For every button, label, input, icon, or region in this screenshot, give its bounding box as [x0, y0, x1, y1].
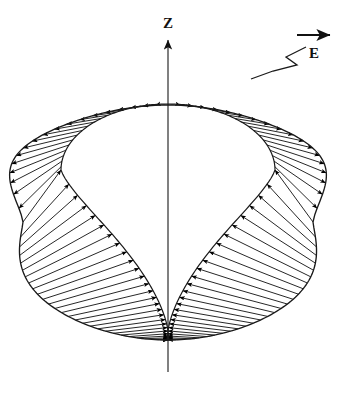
e-field-label: E: [309, 45, 319, 61]
figure-root: Z E: [0, 0, 345, 395]
z-axis-label: Z: [163, 15, 173, 31]
canvas-background: [0, 0, 345, 395]
cardioid-field-diagram: Z E: [0, 0, 345, 395]
